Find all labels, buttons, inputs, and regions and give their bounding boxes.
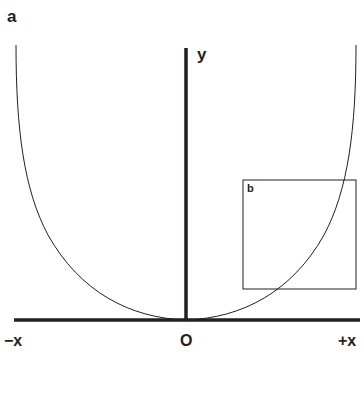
origin-label: O: [180, 333, 192, 349]
y-axis-label: y: [197, 46, 206, 63]
panel-label: a: [7, 8, 16, 25]
inset-box-b: [243, 180, 356, 289]
pos-x-label: +x: [338, 333, 356, 349]
neg-x-label: −x: [4, 333, 22, 349]
inset-label-b: b: [247, 183, 254, 194]
